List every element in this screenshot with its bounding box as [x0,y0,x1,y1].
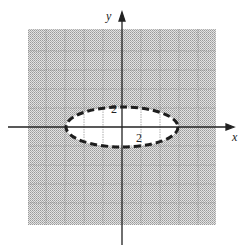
y-axis-label: y [105,9,112,23]
x-tick-label: 2 [136,131,142,145]
y-tick-label: 2 [111,102,117,116]
inequality-graph: y x 2 2 [0,0,246,247]
y-axis-arrow-icon [119,12,125,21]
x-axis-label: x [231,130,238,144]
